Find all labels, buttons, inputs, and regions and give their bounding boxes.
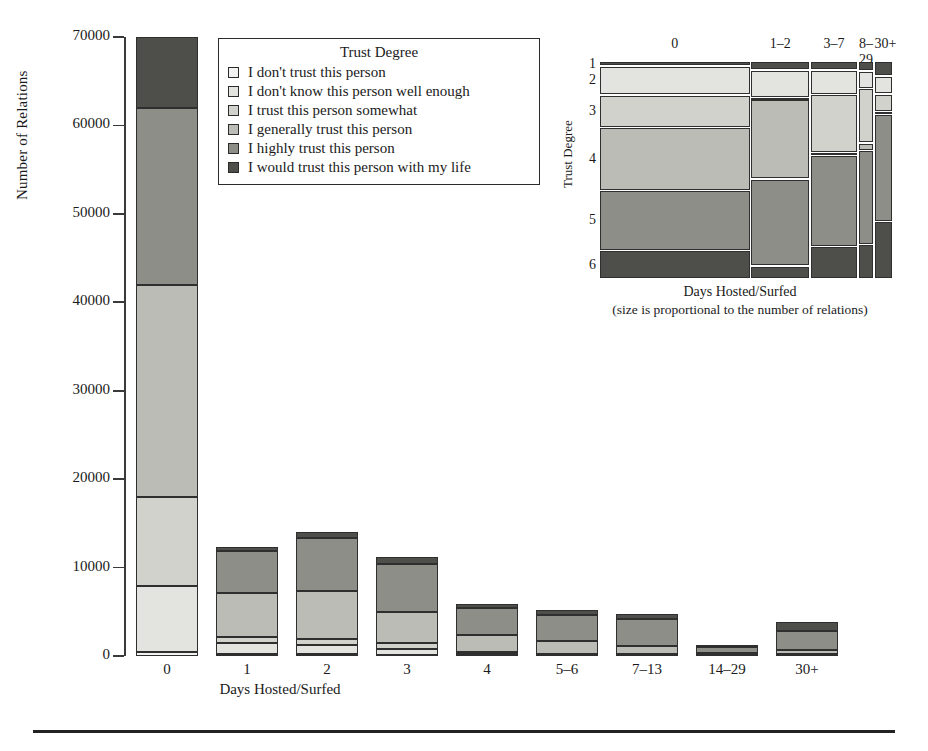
legend-swatch-icon	[228, 86, 239, 97]
legend-item-label: I generally trust this person	[248, 121, 412, 138]
bar-segment	[216, 643, 278, 654]
bar-segment	[776, 622, 838, 632]
legend-item[interactable]: I highly trust this person	[228, 139, 530, 158]
bar-segment	[136, 652, 198, 656]
bar-3[interactable]	[376, 557, 438, 656]
legend-swatch-icon	[228, 143, 239, 154]
bar-segment	[136, 586, 198, 651]
legend-item-label: I don't trust this person	[248, 64, 386, 81]
mosaic-cell	[811, 247, 858, 278]
bar-segment	[216, 637, 278, 643]
mosaic-column-label: 0	[600, 36, 750, 52]
legend-item[interactable]: I generally trust this person	[228, 120, 530, 139]
bar-segment	[616, 614, 678, 620]
legend-item-label: I highly trust this person	[248, 140, 395, 157]
mosaic-column[interactable]	[811, 62, 858, 280]
y-axis-line	[124, 37, 126, 656]
mosaic-cell	[811, 153, 858, 155]
x-axis-tick-label: 7–13	[616, 661, 678, 678]
x-axis-tick-label: 0	[136, 661, 198, 678]
bar-segment	[216, 547, 278, 551]
bar-segment	[696, 653, 758, 656]
bar-0[interactable]	[136, 37, 198, 656]
mosaic-x-axis-title: Days Hosted/Surfed	[552, 284, 928, 300]
bar-7-13[interactable]	[616, 614, 678, 656]
bar-segment	[296, 654, 358, 656]
mosaic-cell	[751, 267, 809, 278]
x-axis-tick-label: 14–29	[696, 661, 758, 678]
mosaic-column-label: 30+	[875, 36, 892, 52]
mosaic-caption: (size is proportional to the number of r…	[552, 302, 928, 318]
y-axis-tick-label: 20000	[14, 469, 110, 486]
legend-box: Trust Degree I don't trust this personI …	[218, 38, 540, 185]
x-axis-tick-label: 1	[216, 661, 278, 678]
mosaic-cell	[875, 95, 892, 111]
bar-segment	[536, 641, 598, 653]
bar-segment	[376, 612, 438, 643]
figure-canvas: Number of Relations 01000020000300004000…	[0, 0, 928, 751]
mosaic-cell	[600, 62, 750, 65]
bar-4[interactable]	[456, 604, 518, 656]
bar-segment	[296, 639, 358, 644]
bar-14-29[interactable]	[696, 646, 758, 656]
y-axis-tick	[113, 567, 124, 569]
y-axis-tick	[113, 301, 124, 303]
bar-segment	[296, 645, 358, 655]
bar-segment	[136, 108, 198, 285]
mosaic-column[interactable]	[751, 62, 809, 280]
y-axis-tick-label: 0	[14, 646, 110, 663]
legend-item-label: I trust this person somewhat	[248, 102, 417, 119]
bar-5-6[interactable]	[536, 610, 598, 656]
mosaic-column-label: 3–7	[811, 36, 858, 52]
bar-segment	[456, 604, 518, 608]
y-axis-tick-label: 30000	[14, 381, 110, 398]
mosaic-column[interactable]	[875, 62, 892, 280]
mosaic-cell	[875, 115, 892, 221]
legend-item[interactable]: I don't know this person well enough	[228, 82, 530, 101]
y-axis-tick	[113, 36, 124, 38]
bar-segment	[456, 652, 518, 654]
bar-segment	[776, 631, 838, 650]
mosaic-cells	[600, 62, 912, 280]
mosaic-row-label: 3	[576, 103, 596, 119]
bar-segment	[296, 591, 358, 640]
bar-segment	[456, 608, 518, 635]
bar-segment	[216, 593, 278, 637]
legend-item-label: I would trust this person with my life	[248, 159, 471, 176]
legend-item[interactable]: I would trust this person with my life	[228, 158, 530, 177]
mosaic-cell	[600, 67, 750, 94]
mosaic-cell	[751, 71, 809, 97]
mosaic-cell	[600, 128, 750, 189]
y-axis-tick-label: 60000	[14, 115, 110, 132]
bar-segment	[136, 285, 198, 497]
legend-item[interactable]: I don't trust this person	[228, 63, 530, 82]
bar-segment	[776, 650, 838, 655]
bar-segment	[696, 647, 758, 652]
mosaic-cell	[875, 62, 892, 75]
mosaic-column[interactable]	[600, 62, 750, 280]
bar-1[interactable]	[216, 547, 278, 656]
mosaic-row-label: 1	[576, 56, 596, 72]
legend-item[interactable]: I trust this person somewhat	[228, 101, 530, 120]
y-axis-tick	[113, 655, 124, 657]
mosaic-column-label: 1–2	[751, 36, 809, 52]
y-axis-tick	[113, 390, 124, 392]
bar-2[interactable]	[296, 532, 358, 656]
x-axis-tick-label: 30+	[776, 661, 838, 678]
mosaic-row-label: 4	[576, 151, 596, 167]
bar-segment	[296, 532, 358, 538]
bar-30-[interactable]	[776, 622, 838, 656]
mosaic-cell	[751, 180, 809, 266]
mosaic-cell	[811, 95, 858, 151]
mosaic-cell	[751, 100, 809, 178]
bar-segment	[536, 610, 598, 615]
legend-swatch-icon	[228, 162, 239, 173]
bar-segment	[216, 551, 278, 593]
bar-segment	[376, 564, 438, 612]
mosaic-cell	[859, 144, 873, 150]
mosaic-cell	[600, 251, 750, 278]
mosaic-cell	[811, 71, 858, 94]
bar-segment	[376, 643, 438, 649]
mosaic-cell	[875, 222, 892, 278]
mosaic-column[interactable]	[859, 62, 873, 280]
